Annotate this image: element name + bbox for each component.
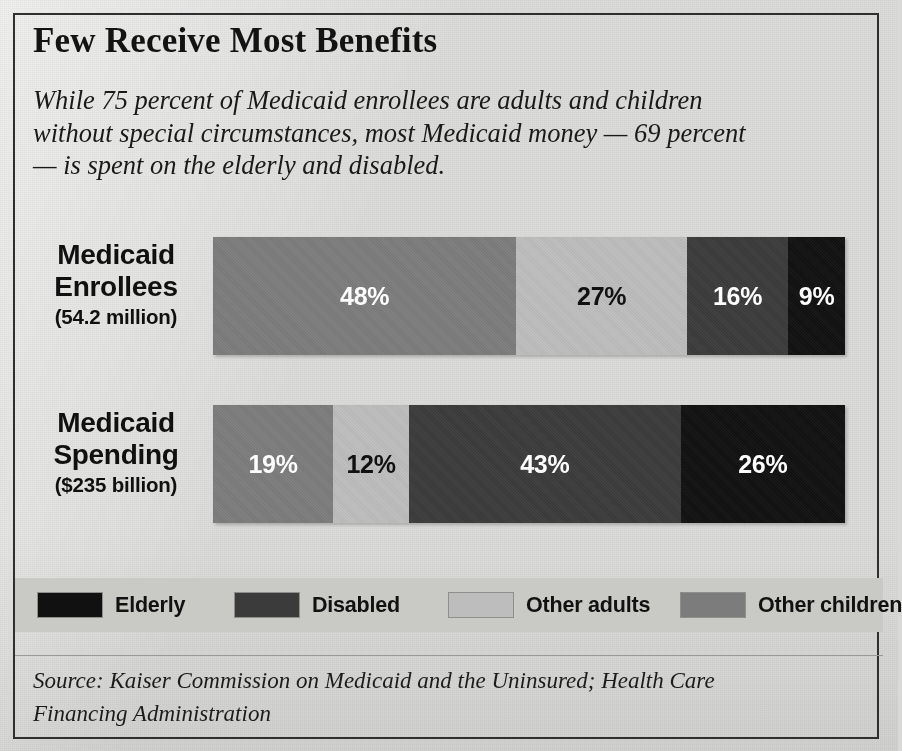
bar-label-spending-line2: Spending	[24, 439, 208, 471]
bar-segment-value: 12%	[346, 450, 395, 479]
source-line-1: Source: Kaiser Commission on Medicaid an…	[33, 664, 823, 697]
bar-segment-value: 9%	[799, 282, 835, 311]
bar-segment-value: 16%	[713, 282, 762, 311]
legend-item-disabled[interactable]: Disabled	[234, 592, 400, 618]
bar-label-spending-line1: Medicaid	[24, 407, 208, 439]
legend-swatch-elderly-icon	[37, 592, 103, 618]
legend-item-other-children[interactable]: Other children	[680, 592, 902, 618]
source-note: Source: Kaiser Commission on Medicaid an…	[33, 664, 823, 730]
bar-segment-spending-other-children[interactable]: 19%	[213, 405, 333, 523]
legend-item-elderly[interactable]: Elderly	[37, 592, 185, 618]
bar-segment-value: 19%	[248, 450, 297, 479]
source-line-2: Financing Administration	[33, 697, 823, 730]
bar-segment-spending-elderly[interactable]: 26%	[681, 405, 845, 523]
legend-swatch-other-adults-icon	[448, 592, 514, 618]
bar-label-spending-line3: ($235 billion)	[24, 471, 208, 498]
bar-label-spending: Medicaid Spending ($235 billion)	[24, 407, 208, 498]
bar-segment-value: 48%	[340, 282, 389, 311]
bar-segment-spending-disabled[interactable]: 43%	[409, 405, 681, 523]
legend-item-other-adults[interactable]: Other adults	[448, 592, 650, 618]
bar-segment-enrollees-elderly[interactable]: 9%	[788, 237, 845, 355]
legend-swatch-other-children-icon	[680, 592, 746, 618]
bar-segment-enrollees-other-children[interactable]: 48%	[213, 237, 516, 355]
legend-label-disabled: Disabled	[312, 593, 400, 618]
bar-label-enrollees-line1: Medicaid	[24, 239, 208, 271]
bar-label-enrollees: Medicaid Enrollees (54.2 million)	[24, 239, 208, 330]
legend-label-other-children: Other children	[758, 593, 902, 618]
bar-segment-enrollees-other-adults[interactable]: 27%	[516, 237, 687, 355]
legend-swatch-disabled-icon	[234, 592, 300, 618]
bar-label-enrollees-line3: (54.2 million)	[24, 303, 208, 330]
source-divider	[15, 655, 883, 656]
bar-segment-value: 26%	[738, 450, 787, 479]
legend-label-other-adults: Other adults	[526, 593, 650, 618]
bar-segment-value: 27%	[577, 282, 626, 311]
legend-label-elderly: Elderly	[115, 593, 185, 618]
bar-segment-enrollees-disabled[interactable]: 16%	[687, 237, 788, 355]
chart-legend: Elderly Disabled Other adults Other chil…	[15, 578, 883, 632]
bar-enrollees: 48% 27% 16% 9%	[213, 237, 845, 355]
bar-spending: 19% 12% 43% 26%	[213, 405, 845, 523]
bar-segment-spending-other-adults[interactable]: 12%	[333, 405, 409, 523]
bar-segment-value: 43%	[520, 450, 569, 479]
bar-label-enrollees-line2: Enrollees	[24, 271, 208, 303]
